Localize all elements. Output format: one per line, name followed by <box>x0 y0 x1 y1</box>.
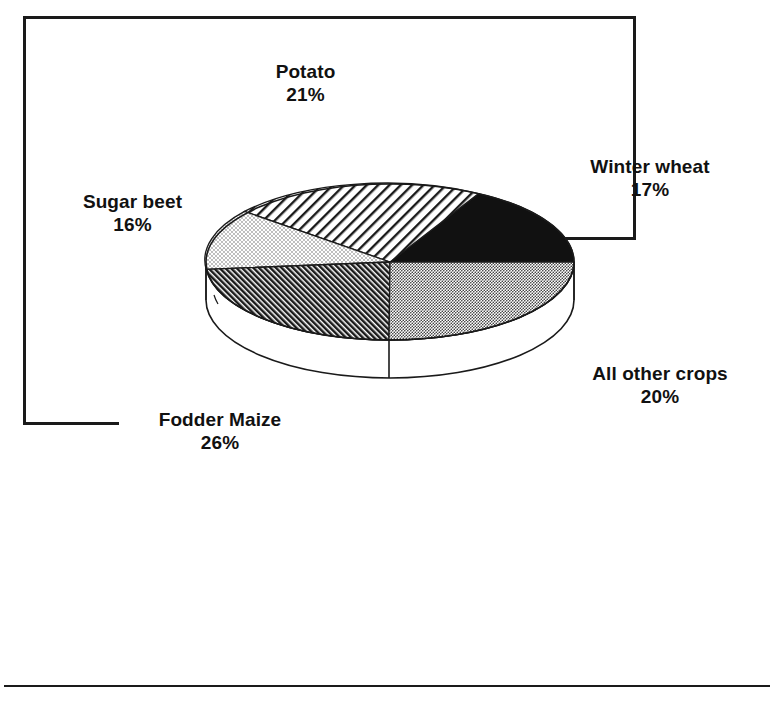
pie-label-sugar-beet-name: Sugar beet <box>50 190 215 213</box>
pie-label-potato-name: Potato <box>223 60 388 83</box>
pie-label-fodder-maize: Fodder Maize 26% <box>130 408 310 454</box>
pie-label-sugar-beet: Sugar beet 16% <box>50 190 215 236</box>
pie-label-all-other-crops-value: 20% <box>570 385 750 408</box>
page-bottom-rule <box>4 685 770 687</box>
page-canvas: Potato 21% Winter wheat 17% Sugar beet 1… <box>0 0 774 701</box>
pie-label-winter-wheat-name: Winter wheat <box>555 155 745 178</box>
pie-label-fodder-maize-value: 26% <box>130 431 310 454</box>
pie-label-winter-wheat-value: 17% <box>555 178 745 201</box>
pie-label-potato: Potato 21% <box>223 60 388 106</box>
pie-label-sugar-beet-value: 16% <box>50 213 215 236</box>
pie-label-potato-value: 21% <box>223 83 388 106</box>
pie-label-all-other-crops: All other crops 20% <box>570 362 750 408</box>
pie-label-all-other-crops-name: All other crops <box>570 362 750 385</box>
pie-chart: Potato 21% Winter wheat 17% Sugar beet 1… <box>0 0 774 701</box>
pie-label-winter-wheat: Winter wheat 17% <box>555 155 745 201</box>
pie-label-fodder-maize-name: Fodder Maize <box>130 408 310 431</box>
pie-chart-graphic <box>185 105 585 445</box>
